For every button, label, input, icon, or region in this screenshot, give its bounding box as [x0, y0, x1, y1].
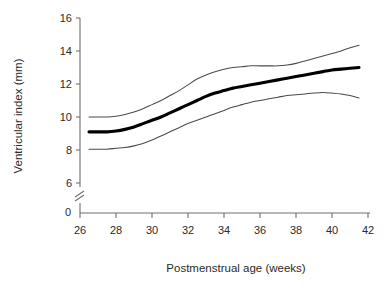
- x-tick-label: 26: [74, 224, 86, 236]
- x-tick-label: 28: [110, 224, 122, 236]
- y-tick-label: 8: [66, 144, 72, 156]
- x-tick-label: 30: [146, 224, 158, 236]
- x-tick-label: 42: [362, 224, 374, 236]
- y-tick-label: 14: [60, 45, 72, 57]
- x-axis-title: Postmenstrual age (weeks): [166, 262, 306, 274]
- chart-tick-marks: [76, 18, 368, 218]
- x-tick-label: 40: [326, 224, 338, 236]
- y-tick-label: 12: [60, 78, 72, 90]
- x-tick-label: 38: [290, 224, 302, 236]
- y-tick-label: 10: [60, 111, 72, 123]
- x-tick-label: 36: [254, 224, 266, 236]
- y-axis-zero-label: 0: [65, 206, 71, 218]
- series-curve-lower-limit: [89, 93, 359, 150]
- series-curve-mean: [89, 68, 359, 132]
- x-tick-label: 32: [182, 224, 194, 236]
- y-axis-title: Ventricular index (mm): [12, 58, 24, 173]
- chart-tick-labels: 06810121416262830323436384042: [60, 12, 374, 236]
- y-axis-break-icon: [75, 191, 84, 201]
- chart-series-curves: [89, 45, 359, 149]
- x-tick-label: 34: [218, 224, 230, 236]
- series-curve-upper-limit: [89, 45, 359, 117]
- y-tick-label: 16: [60, 12, 72, 24]
- chart-figure: 06810121416262830323436384042 Postmenstr…: [0, 0, 389, 292]
- chart-plot-area: 06810121416262830323436384042 Postmenstr…: [0, 0, 389, 292]
- y-tick-label: 6: [66, 177, 72, 189]
